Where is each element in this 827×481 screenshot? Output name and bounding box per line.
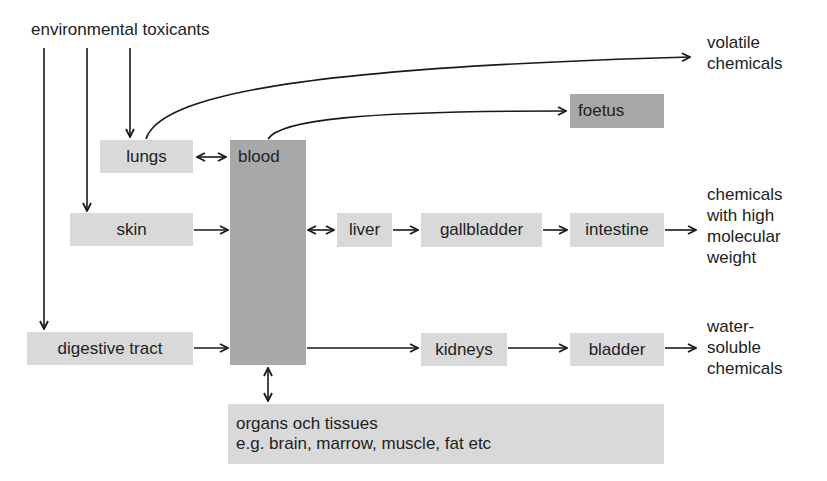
output-hmw-line-2: with high [707,205,783,226]
output-hmw-line-4: weight [707,247,783,268]
output-hmw-line-1: chemicals [707,184,783,205]
arrow-blood-to-foetus [268,111,566,139]
output-ws-line-3: chemicals [707,358,783,379]
node-organs-tissues: organs och tissues e.g. brain, marrow, m… [228,404,664,464]
node-foetus: foetus [570,94,664,128]
output-ws-line-2: soluble [707,337,783,358]
node-liver: liver [337,213,392,247]
node-blood: blood [230,140,306,365]
node-gallbladder: gallbladder [421,213,542,247]
output-volatile-chemicals: volatile chemicals [707,32,783,74]
output-water-soluble-chemicals: water- soluble chemicals [707,316,783,379]
output-volatile-line-1: volatile [707,32,783,53]
node-kidneys: kidneys [421,333,507,366]
node-digestive-tract: digestive tract [27,332,193,365]
organs-line-1: organs och tissues [236,414,378,434]
node-intestine: intestine [570,213,664,247]
node-lungs: lungs [100,140,193,173]
node-bladder: bladder [570,333,664,366]
output-hmw-line-3: molecular [707,226,783,247]
node-blood-label: blood [238,147,280,167]
organs-line-2: e.g. brain, marrow, muscle, fat etc [236,434,491,454]
output-ws-line-1: water- [707,316,783,337]
output-high-molecular-weight: chemicals with high molecular weight [707,184,783,268]
output-volatile-line-2: chemicals [707,53,783,74]
source-label: environmental toxicants [31,20,210,40]
node-skin: skin [70,213,193,246]
